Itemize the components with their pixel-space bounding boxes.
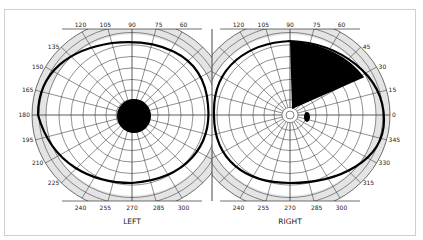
angle-label: 255 [258,204,270,211]
visual-field-chart: 1201059075602402552702853001351501651801… [0,0,423,240]
angle-label: 285 [153,204,165,211]
angle-label: 15 [389,86,397,93]
angle-label: 165 [22,86,34,93]
angle-label: 330 [379,159,391,166]
angle-label: 120 [75,21,87,28]
angle-label: 75 [155,21,163,28]
angle-label: 285 [311,204,323,211]
angle-label: 180 [19,111,31,118]
angle-label: 255 [100,204,112,211]
angle-label: 30 [379,63,387,70]
angle-label: 225 [48,179,60,186]
angle-label: 240 [75,204,87,211]
right-eye-field: 1201059075602402552702853004530150345330… [190,19,400,226]
angle-label: 270 [126,204,138,211]
left-eye-label: LEFT [123,217,141,226]
angle-label: 315 [363,179,375,186]
angle-label: 135 [48,43,60,50]
angle-label: 90 [286,21,294,28]
left-central-scotoma [117,99,151,133]
angle-label: 105 [100,21,112,28]
angle-label: 210 [32,159,44,166]
angle-label: 240 [233,204,245,211]
angle-label: 60 [180,21,188,28]
right-eye-label: RIGHT [278,217,302,226]
angle-label: 300 [178,204,190,211]
angle-label: 45 [363,43,371,50]
angle-label: 105 [258,21,270,28]
right-blind-spot [304,112,310,122]
angle-label: 150 [32,63,44,70]
angle-label: 300 [336,204,348,211]
angle-label: 75 [313,21,321,28]
angle-label: 60 [338,21,346,28]
left-eye-field: 1201059075602402552702853001351501651801… [19,19,232,226]
angle-label: 0 [392,111,396,118]
angle-label: 120 [233,21,245,28]
angle-label: 195 [22,136,34,143]
angle-label: 345 [389,136,401,143]
angle-label: 270 [284,204,296,211]
angle-label: 90 [128,21,136,28]
